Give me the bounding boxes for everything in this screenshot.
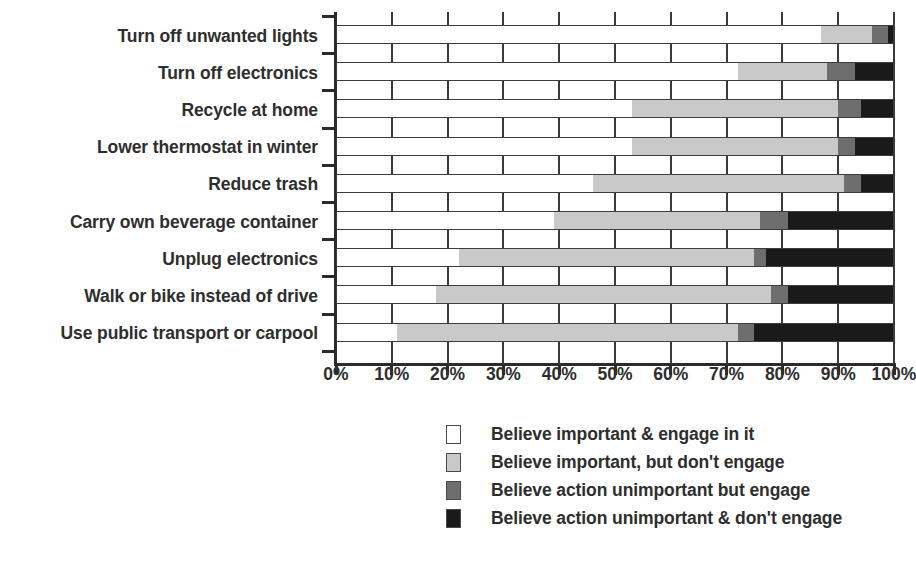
bar-segment (632, 99, 838, 118)
bar-segment (459, 248, 755, 267)
y-axis-label: Walk or bike instead of drive (0, 286, 318, 306)
bar-segment (838, 99, 860, 118)
legend-item: Believe action unimportant but engage (446, 477, 916, 503)
legend-item: Believe important & engage in it (446, 421, 916, 447)
bar-segment (827, 62, 855, 81)
x-axis-tick-label: 40% (542, 364, 577, 385)
bar-segment (888, 25, 894, 44)
bar-segment (861, 99, 894, 118)
x-axis-tick-labels: 0%10%20%30%40%50%60%70%80%90%100% (336, 364, 896, 390)
y-axis-label: Lower thermostat in winter (0, 137, 318, 157)
stacked-bar (336, 174, 894, 193)
legend-swatch-icon (446, 453, 461, 472)
stacked-bar-chart: Turn off unwanted lightsTurn off electro… (0, 0, 916, 573)
stacked-bar (336, 323, 894, 342)
bar-segment (336, 211, 554, 230)
bar-segment (788, 285, 894, 304)
x-axis-tick-label: 70% (709, 364, 744, 385)
bar-segment (632, 137, 838, 156)
bar-segment (844, 174, 861, 193)
stacked-bar (336, 99, 894, 118)
stacked-bar (336, 285, 894, 304)
bar-segment (760, 211, 788, 230)
x-axis-tick-label: 30% (486, 364, 521, 385)
y-axis-tick (322, 15, 334, 18)
y-axis-tick (322, 238, 334, 241)
bar-segment (754, 248, 765, 267)
x-axis-tick-label: 80% (765, 364, 800, 385)
y-axis-tick (322, 89, 334, 92)
bar-segment (336, 285, 436, 304)
x-axis-tick-label: 100% (872, 364, 916, 385)
legend-swatch-icon (446, 481, 461, 500)
bar-segment (754, 323, 894, 342)
y-axis-label: Reduce trash (0, 174, 318, 194)
bar-segment (738, 62, 827, 81)
y-axis-tick (322, 275, 334, 278)
y-axis-label: Recycle at home (0, 100, 318, 120)
legend-label: Believe important & engage in it (491, 424, 754, 445)
y-axis-tick (322, 313, 334, 316)
y-axis-label: Turn off electronics (0, 63, 318, 83)
bar-segment (821, 25, 871, 44)
chart-legend: Believe important & engage in itBelieve … (446, 421, 916, 533)
y-axis-tick (322, 350, 334, 353)
legend-label: Believe action unimportant but engage (491, 480, 810, 501)
x-axis-tick-label: 10% (374, 364, 409, 385)
x-axis-tick-label: 50% (597, 364, 632, 385)
legend-swatch-icon (446, 509, 461, 528)
y-axis-tick (322, 201, 334, 204)
bar-segment (336, 25, 821, 44)
bar-segment (766, 248, 894, 267)
y-axis-label: Turn off unwanted lights (0, 26, 318, 46)
y-axis-label: Carry own beverage container (0, 212, 318, 232)
bar-segment (872, 25, 889, 44)
legend-swatch-icon (446, 425, 461, 444)
bar-segment (336, 137, 632, 156)
bar-segment (788, 211, 894, 230)
bar-segment (861, 174, 894, 193)
y-axis-tick (322, 52, 334, 55)
y-axis-tick (322, 127, 334, 130)
x-axis-tick-label: 0% (323, 364, 348, 385)
stacked-bar (336, 211, 894, 230)
bar-segment (738, 323, 755, 342)
legend-label: Believe important, but don't engage (491, 452, 784, 473)
legend-label: Believe action unimportant & don't engag… (491, 508, 842, 529)
stacked-bar (336, 25, 894, 44)
stacked-bar (336, 62, 894, 81)
stacked-bar (336, 137, 894, 156)
y-axis-label: Use public transport or carpool (0, 323, 318, 343)
legend-item: Believe action unimportant & don't engag… (446, 505, 916, 531)
y-axis-tick (322, 164, 334, 167)
bar-segment (771, 285, 788, 304)
bar-segment (855, 62, 894, 81)
bar-segment (397, 323, 737, 342)
bar-segment (336, 62, 738, 81)
bar-segment (336, 99, 632, 118)
y-axis-category-labels: Turn off unwanted lightsTurn off electro… (0, 18, 326, 358)
x-axis-tick-label: 90% (821, 364, 856, 385)
bar-segment (855, 137, 894, 156)
bar-segment (336, 323, 397, 342)
bar-segment (336, 248, 459, 267)
bar-segment (593, 174, 844, 193)
bar-segment (436, 285, 771, 304)
bar-segment (554, 211, 760, 230)
x-axis-tick-label: 20% (430, 364, 465, 385)
bar-segment (336, 174, 593, 193)
bar-segment (838, 137, 855, 156)
legend-item: Believe important, but don't engage (446, 449, 916, 475)
x-axis-tick-label: 60% (653, 364, 688, 385)
plot-area (336, 18, 894, 358)
stacked-bar (336, 248, 894, 267)
y-axis-label: Unplug electronics (0, 249, 318, 269)
